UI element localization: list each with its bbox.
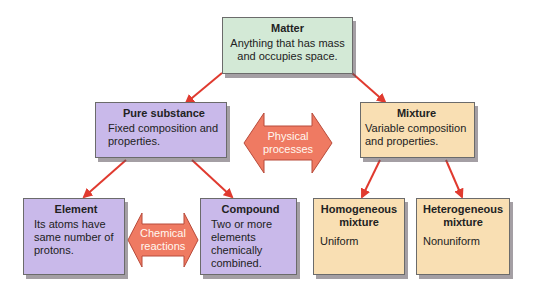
physical-processes-label: Physical processes <box>260 130 316 156</box>
node-description: Nonuniform <box>423 235 503 248</box>
arrow-pure-to-compound <box>192 160 232 197</box>
arrow-pure-to-element <box>84 160 126 197</box>
node-title: Mixture <box>365 107 468 120</box>
node-description: Variable composition and properties. <box>365 122 468 148</box>
node-compound: Compound Two or more elements chemically… <box>200 198 297 275</box>
arrow-matter-to-mixture <box>352 73 385 102</box>
node-mixture: Mixture Variable composition and propert… <box>360 102 475 158</box>
node-title: Homogeneous mixture <box>320 203 398 229</box>
node-description: Two or more elements chemically combined… <box>211 218 290 270</box>
node-pure-substance: Pure substance Fixed composition and pro… <box>95 102 227 158</box>
node-description: Anything that has mass and occupies spac… <box>229 37 346 63</box>
node-homogeneous-mixture: Homogeneous mixture Uniform <box>313 198 405 275</box>
arrow-mixture-to-homogeneous <box>362 160 380 197</box>
arrow-mixture-to-heterogeneous <box>446 160 462 197</box>
node-element: Element Its atoms have same number of pr… <box>23 198 125 275</box>
node-heterogeneous-mixture: Heterogeneous mixture Nonuniform <box>416 198 510 275</box>
node-description: Its atoms have same number of protons. <box>34 218 118 257</box>
node-description: Fixed composition and properties. <box>108 122 220 148</box>
arrow-matter-to-pure <box>186 73 222 103</box>
node-title: Compound <box>211 203 290 216</box>
node-title: Element <box>34 203 118 216</box>
node-title: Pure substance <box>108 107 220 120</box>
node-description: Uniform <box>320 235 398 248</box>
node-title: Heterogeneous mixture <box>423 203 503 229</box>
node-title: Matter <box>229 22 346 35</box>
chemical-reactions-label: Chemical reactions <box>137 227 189 253</box>
node-matter: Matter Anything that has mass and occupi… <box>222 17 353 74</box>
